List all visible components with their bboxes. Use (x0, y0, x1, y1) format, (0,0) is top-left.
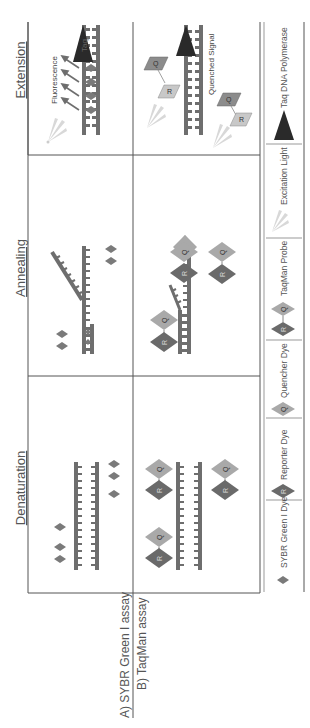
svg-text:Taq DNA Polymerase: Taq DNA Polymerase (279, 27, 289, 108)
svg-text:Q: Q (161, 317, 169, 323)
pcr-diagram: Extension Annealing Denaturation A) SYBR… (0, 0, 310, 728)
fluorescence-arrows-icon (62, 56, 79, 110)
svg-text:R: R (167, 88, 172, 95)
svg-text:Q: Q (156, 534, 164, 540)
legend-excitation-light: Excitation Light (272, 147, 289, 232)
legend-sybr-dye: SYBR Green I Dye (277, 496, 289, 584)
legend: SYBR Green I Dye R Reporter Dye Q Quench… (266, 27, 302, 584)
taqman-denaturation-panel: Q R Q R Q R (145, 459, 239, 570)
phase-headings: Extension Annealing Denaturation (13, 41, 28, 525)
legend-reporter-dye: R Reporter Dye (271, 429, 295, 498)
svg-text:R: R (181, 271, 188, 276)
svg-text:Q: Q (156, 466, 164, 472)
svg-text:R: R (156, 556, 163, 561)
svg-text:R: R (161, 340, 168, 345)
svg-text:Q: Q (280, 406, 288, 412)
excitation-light-icon (272, 210, 289, 232)
label-taqman-assay: B) TaqMan assay (135, 598, 149, 691)
taq-polymerase-icon (176, 25, 196, 56)
probe-free-1: Q R (145, 459, 173, 500)
taqman-extension-panel: Quenched Signal Q R Q R (144, 25, 252, 148)
sybr-extension-panel: Taq Fluorescence (47, 25, 101, 144)
svg-text:Q: Q (153, 60, 159, 68)
probe-free-1: Q R (208, 242, 236, 284)
svg-text:Excitation Light: Excitation Light (279, 147, 289, 205)
svg-text:R: R (156, 488, 163, 493)
excitation-light-icon (47, 118, 68, 144)
taq-polymerase-icon (274, 110, 294, 140)
svg-text:R: R (280, 489, 287, 494)
svg-text:Q: Q (222, 466, 230, 472)
legend-taqman-probe: Q R TaqMan Probe (271, 240, 295, 336)
sybr-dye-icon (277, 576, 289, 584)
sybr-annealing-panel (52, 245, 117, 354)
svg-text:Reporter Dye: Reporter Dye (279, 429, 289, 480)
svg-text:R: R (222, 488, 229, 493)
heading-extension: Extension (13, 41, 28, 98)
svg-text:Q: Q (181, 249, 189, 255)
probe-free-2: Q R (150, 310, 178, 352)
svg-text:Q: Q (280, 306, 288, 312)
legend-taq-polymerase: Taq DNA Polymerase (274, 27, 294, 140)
svg-text:Taq: Taq (80, 39, 89, 52)
svg-text:SYBR Green I Dye: SYBR Green I Dye (279, 496, 289, 568)
displaced-probe-2: Q R (217, 93, 252, 126)
taqman-annealing-panel: Q R Q R Q R (150, 235, 236, 354)
sybr-dye-free (54, 460, 120, 563)
quenched-signal-label: Quenched Signal (207, 33, 216, 95)
label-sybr-assay: A) SYBR Green I assay (118, 592, 132, 718)
heading-annealing: Annealing (13, 239, 28, 297)
sybr-dye-bound (85, 64, 97, 114)
svg-text:R: R (239, 116, 244, 123)
sybr-denaturation-panel (54, 460, 120, 570)
probe-free-3: Q R (145, 527, 173, 568)
heading-denaturation: Denaturation (13, 451, 28, 525)
svg-text:Q: Q (226, 96, 232, 104)
svg-text:R: R (219, 272, 226, 277)
svg-text:Quencher Dye: Quencher Dye (279, 343, 289, 398)
displaced-probe-1: Q R (144, 57, 180, 98)
fluorescence-label: Fluorescence (50, 55, 59, 104)
svg-text:R: R (280, 327, 287, 332)
svg-text:TaqMan Probe: TaqMan Probe (279, 240, 289, 296)
svg-text:Q: Q (219, 249, 227, 255)
legend-quencher-dye: Q Quencher Dye (271, 343, 295, 416)
grid-lines (28, 22, 304, 718)
probe-free-2: Q R (211, 459, 239, 500)
